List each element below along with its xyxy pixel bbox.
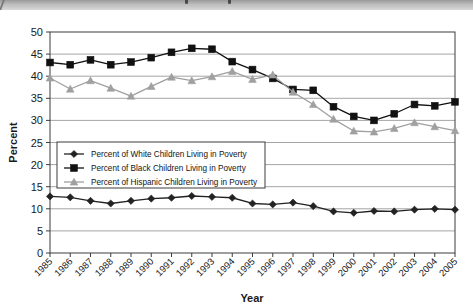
data-point-marker [67,61,74,68]
data-point-marker [391,110,398,117]
data-point-marker [350,113,357,120]
legend-label: Percent of Hispanic Children Living in P… [91,178,258,187]
x-axis-tick-label: 1994 [214,256,237,279]
data-point-marker [330,103,337,110]
x-axis-tick-label: 2003 [396,256,419,279]
data-point-marker [128,59,135,66]
data-point-marker [47,59,54,66]
x-axis-tick-label: 1989 [113,256,136,279]
y-axis-tick-label: 5 [37,225,43,237]
x-axis-tick-label: 1993 [194,256,217,279]
x-axis-tick-label: 2001 [356,256,379,279]
x-axis-tick-label: 1986 [52,256,75,279]
legend-entries-group: Percent of White Children Living in Pove… [64,150,258,187]
chart-page: 05101520253035404550 1985198619871988198… [0,0,473,306]
data-point-marker [452,98,459,105]
chart-svg-canvas: 05101520253035404550 1985198619871988198… [0,10,473,306]
y-axis-tick-label: 50 [31,26,43,38]
banner-slash-mark [0,0,15,10]
data-point-marker [229,58,236,65]
y-axis-tick-label: 0 [37,247,43,259]
page-banner-strip [0,0,473,10]
banner-tick-right-icon [228,0,231,4]
x-axis-tick-label: 1996 [254,256,277,279]
data-point-marker [431,102,438,109]
y-axis-tick-label: 35 [31,92,43,104]
x-axis-tick-label: 1995 [234,256,257,279]
x-axis-tick-label: 2000 [335,256,358,279]
data-point-marker [107,61,114,68]
line-chart: 05101520253035404550 1985198619871988198… [0,10,473,306]
x-axis-tick-label: 2002 [376,256,399,279]
y-axis-tick-label: 40 [31,70,43,82]
y-axis-tick-label: 20 [31,159,43,171]
x-axis-title: Year [240,292,264,304]
x-axis-tick-label: 2004 [416,256,439,279]
data-point-marker [188,45,195,52]
banner-tick-left-icon [185,0,188,4]
data-point-marker [249,66,256,73]
data-point-marker [209,46,216,53]
x-axis-tick-label: 1991 [153,256,176,279]
x-axis-tick-label: 2005 [437,256,460,279]
data-point-marker [411,101,418,108]
x-axis-tick-label: 1988 [92,256,115,279]
y-axis-tick-label: 30 [31,114,43,126]
data-point-marker [148,54,155,61]
legend-label: Percent of Black Children Living in Pove… [91,164,247,173]
x-axis-tick-label: 1992 [173,256,196,279]
chart-legend: Percent of White Children Living in Pove… [57,142,265,188]
x-axis-tick-label: 1999 [315,256,338,279]
x-axis-tick-label: 1985 [32,256,55,279]
x-axis-tick-label: 1990 [133,256,156,279]
data-point-marker [371,117,378,124]
y-axis-tick-label: 15 [31,181,43,193]
data-point-marker [168,49,175,56]
y-axis-tick-label: 25 [31,137,43,149]
y-axis-tick-label: 10 [31,203,43,215]
y-axis-tick-label: 45 [31,48,43,60]
legend-marker-icon [71,165,78,172]
x-axis-tick-label: 1998 [295,256,318,279]
x-axis-tick-label: 1987 [72,256,95,279]
data-point-marker [310,87,317,94]
y-axis-title: Percent [7,122,19,163]
legend-label: Percent of White Children Living in Pove… [91,150,248,159]
x-axis-group: 1985198619871988198919901991199219931994… [32,253,460,278]
x-axis-tick-label: 1997 [275,256,298,279]
data-point-marker [87,56,94,63]
